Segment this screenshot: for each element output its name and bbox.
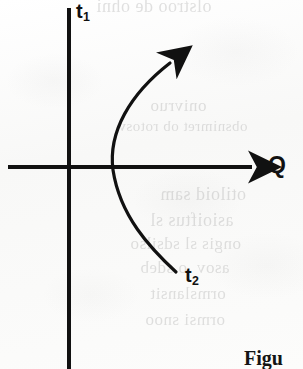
figure-page: olstroo de ohni onivruo obsnimret ob rot… xyxy=(0,0,303,369)
t1-label-letter: t xyxy=(76,0,83,22)
figure-caption-fragment: Figu xyxy=(244,347,283,369)
t2-label-letter: t xyxy=(185,264,192,286)
t2-curve-label: t2 xyxy=(185,264,199,287)
t1-label-subscript: 1 xyxy=(83,10,90,24)
figure-line-art xyxy=(0,0,303,369)
t2-label-subscript: 2 xyxy=(192,274,199,288)
q-axis-label: Q xyxy=(268,152,286,179)
t1-axis-label: t1 xyxy=(76,0,90,23)
